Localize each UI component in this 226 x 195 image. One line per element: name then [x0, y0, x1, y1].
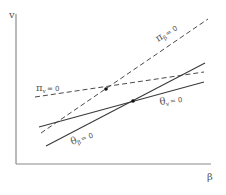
pi-v-nullcline: [35, 72, 204, 97]
equilibrium-points: [104, 87, 135, 103]
pi-beta-label: πβ= 0: [153, 22, 180, 46]
axes: v β: [8, 9, 213, 182]
theta-beta-nullcline: [46, 63, 205, 146]
x-axis-label: β: [207, 171, 213, 182]
theta-v-label: θv= 0: [159, 93, 183, 108]
pi-v-label: πv= 0: [36, 82, 60, 94]
curves: [35, 19, 208, 146]
equilibrium-dot: [131, 99, 135, 103]
y-axis-label: v: [8, 9, 15, 20]
pi-beta-nullcline: [41, 19, 208, 133]
phase-diagram: v β πβ= 0 πv= 0 θv= 0 θβ= 0: [0, 0, 226, 195]
theta-v-nullcline: [39, 82, 204, 127]
equilibrium-dot: [104, 87, 108, 91]
